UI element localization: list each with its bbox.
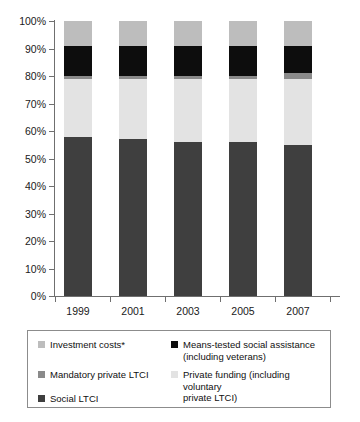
y-axis-tick-label: 0% <box>0 291 46 301</box>
x-axis-tick <box>165 297 166 302</box>
bar-segment <box>229 142 257 296</box>
stacked-bar-chart: 100%90%80%70%60%50%40%30%20%10%0% 199920… <box>0 0 360 422</box>
bar-2005 <box>229 21 257 296</box>
bar-segment <box>229 46 257 76</box>
x-axis-tick <box>220 297 221 302</box>
legend-item-label: Means-tested social assistance (includin… <box>183 339 315 362</box>
y-axis-tick-label: 50% <box>0 154 46 164</box>
bar-segment <box>229 21 257 46</box>
legend-swatch-icon <box>38 341 45 348</box>
legend-item-label: Social LTCI <box>50 393 98 405</box>
bar-2001 <box>119 21 147 296</box>
bar-segment <box>64 137 92 297</box>
y-axis-tick-label: 10% <box>0 264 46 274</box>
legend-item-label: Mandatory private LTCI <box>50 369 149 381</box>
x-axis-tick <box>110 297 111 302</box>
x-axis-tick-label: 2003 <box>158 305 218 317</box>
legend-swatch-icon <box>38 371 45 378</box>
y-axis-tick-label: 30% <box>0 209 46 219</box>
legend-item-label: Private funding (including voluntary pri… <box>183 369 323 404</box>
chart-legend: Investment costs* Means-tested social as… <box>27 330 331 408</box>
legend-item-investment-costs: Investment costs* <box>38 339 168 351</box>
bar-segment <box>64 21 92 46</box>
legend-swatch-icon <box>38 395 45 402</box>
bar-segment <box>229 79 257 142</box>
y-axis-tick-label: 70% <box>0 99 46 109</box>
legend-swatch-icon <box>171 341 178 348</box>
bar-segment <box>174 21 202 46</box>
bar-segment <box>119 46 147 76</box>
bar-segment <box>174 46 202 76</box>
bar-segment <box>284 79 312 145</box>
x-axis-line <box>54 296 340 297</box>
plot-area <box>55 21 340 296</box>
x-axis-tick <box>55 297 56 302</box>
legend-item-means-tested-social-assistance: Means-tested social assistance (includin… <box>171 339 323 362</box>
bar-2007 <box>284 21 312 296</box>
x-axis-tick-label: 1999 <box>48 305 108 317</box>
bar-segment <box>64 79 92 137</box>
x-axis-tick-label: 2007 <box>268 305 328 317</box>
legend-swatch-icon <box>171 371 178 378</box>
bar-segment <box>174 79 202 142</box>
legend-item-label: Investment costs* <box>50 339 125 351</box>
x-axis-tick <box>330 297 331 302</box>
y-axis-tick-label: 90% <box>0 44 46 54</box>
legend-item-mandatory-private-ltci: Mandatory private LTCI <box>38 369 170 381</box>
legend-item-social-ltci: Social LTCI <box>38 393 168 405</box>
x-axis-tick-label: 2005 <box>213 305 273 317</box>
bar-segment <box>119 79 147 140</box>
bar-segment <box>284 145 312 296</box>
bar-segment <box>119 21 147 46</box>
y-axis-tick-label: 40% <box>0 181 46 191</box>
y-axis-tick-label: 60% <box>0 126 46 136</box>
bar-segment <box>284 46 312 74</box>
y-axis-tick-label: 100% <box>0 16 46 26</box>
legend-item-private-funding: Private funding (including voluntary pri… <box>171 369 323 404</box>
x-axis-tick-label: 2001 <box>103 305 163 317</box>
y-axis-tick-label: 80% <box>0 71 46 81</box>
y-axis-tick-label: 20% <box>0 236 46 246</box>
bar-segment <box>119 139 147 296</box>
bar-1999 <box>64 21 92 296</box>
bar-segment <box>64 46 92 76</box>
bar-segment <box>174 142 202 296</box>
x-axis-tick <box>275 297 276 302</box>
bar-2003 <box>174 21 202 296</box>
bar-segment <box>284 21 312 46</box>
